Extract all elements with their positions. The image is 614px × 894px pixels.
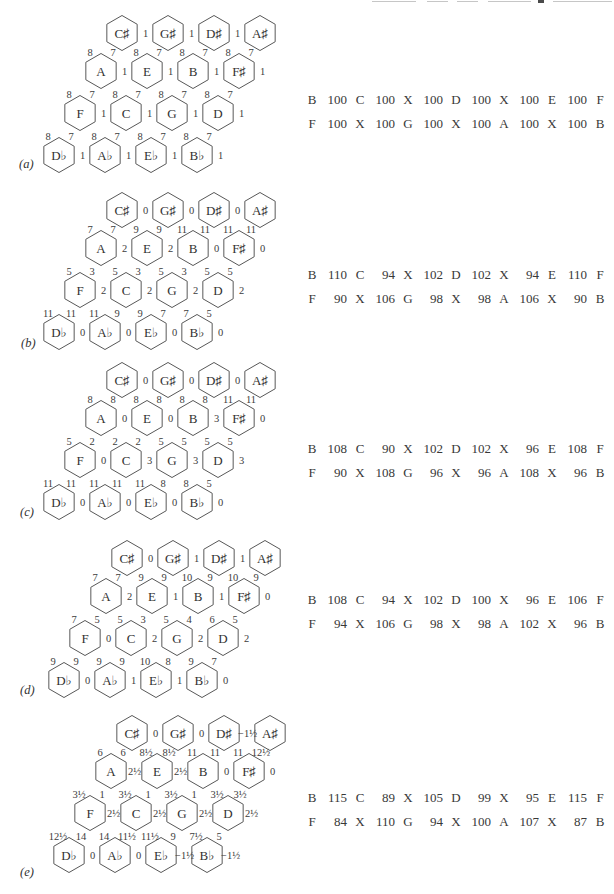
table-note-cell: X xyxy=(398,263,418,287)
edge-weight-horizontal: 1 xyxy=(219,591,224,602)
table-row: F94X106G98X98A102X96B xyxy=(302,612,610,636)
note-label: E♭ xyxy=(154,848,168,863)
edge-weight-diagonal-right: 11 xyxy=(112,478,122,489)
table-note-cell: X xyxy=(350,612,370,636)
table-value-cell: 110 xyxy=(370,810,398,834)
edge-weight-diagonal-left: 3½ xyxy=(118,789,131,800)
table-value-cell: 99 xyxy=(466,786,494,810)
table-note-cell: B xyxy=(590,461,610,485)
edge-weight-diagonal-right: 5 xyxy=(206,478,211,489)
edge-weight-horizontal: 2½ xyxy=(174,766,187,777)
table-note-cell: X xyxy=(398,588,418,612)
edge-weight-diagonal-right: 9 xyxy=(73,656,78,667)
table-note-cell: X xyxy=(494,88,514,112)
edge-weight-diagonal-right: 5 xyxy=(227,266,232,277)
edge-weight-horizontal: 0 xyxy=(189,205,194,216)
edge-weight-diagonal-right: 11 xyxy=(66,478,76,489)
note-label: B♭ xyxy=(195,673,210,688)
edge-weight-diagonal-left: 11 xyxy=(135,478,145,489)
table-note-cell: F xyxy=(302,810,322,834)
edge-weight-diagonal-left: 7 xyxy=(87,224,92,235)
edge-weight-diagonal-right: 7 xyxy=(202,47,207,58)
edge-weight-horizontal: 1 xyxy=(260,66,265,77)
edge-weight-horizontal: 2½ xyxy=(107,808,120,819)
edge-weight-horizontal: 1 xyxy=(80,150,85,161)
edge-weight-diagonal-right: 1 xyxy=(145,789,150,800)
note-label: D♭ xyxy=(56,673,72,688)
panel-e: C♯0G♯0D♯−1½A♯A2½66E2½8½8½B01111F♯01112½F… xyxy=(20,716,285,880)
edge-weight-horizontal: 2 xyxy=(122,243,127,254)
edge-weight-diagonal-left: 8 xyxy=(183,131,188,142)
table-note-cell: X xyxy=(398,786,418,810)
note-label: F♯ xyxy=(237,589,251,604)
note-label: F♯ xyxy=(242,764,256,779)
table-note-cell: X xyxy=(542,287,562,311)
edge-weight-diagonal-left: 5 xyxy=(163,614,168,625)
table-note-cell: B xyxy=(302,588,322,612)
tuning-table-a: B100C100X100D100X100E100FF100X100G100X10… xyxy=(302,88,610,136)
note-label: D♯ xyxy=(211,551,227,566)
table-value-cell: 100 xyxy=(322,112,350,136)
table-value-cell: 110 xyxy=(562,263,590,287)
edge-weight-horizontal: 1 xyxy=(177,675,182,686)
edge-weight-diagonal-right: 7 xyxy=(156,47,161,58)
edge-weight-horizontal: 0 xyxy=(260,413,265,424)
edge-weight-diagonal-left: 5 xyxy=(204,436,209,447)
note-label: F xyxy=(76,283,83,298)
note-label: E xyxy=(153,764,161,779)
edge-weight-diagonal-right: 7 xyxy=(115,572,120,583)
note-label: A♭ xyxy=(97,148,113,163)
edge-weight-horizontal: 0 xyxy=(106,633,111,644)
edge-weight-horizontal: 0 xyxy=(168,413,173,424)
table-note-cell: X xyxy=(494,786,514,810)
edge-weight-diagonal-right: 5 xyxy=(206,308,211,319)
edge-weight-horizontal: 1 xyxy=(131,675,136,686)
edge-weight-diagonal-left: 11 xyxy=(187,747,197,758)
table-note-cell: F xyxy=(590,588,610,612)
edge-weight-diagonal-left: 8 xyxy=(204,89,209,100)
note-label: G xyxy=(167,106,176,121)
note-label: C♯ xyxy=(124,726,139,741)
note-label: A xyxy=(96,64,106,79)
note-label: F♯ xyxy=(232,411,246,426)
table-note-cell: X xyxy=(542,112,562,136)
table-value-cell: 94 xyxy=(322,612,350,636)
edge-weight-diagonal-left: 9 xyxy=(137,308,142,319)
edge-weight-diagonal-right: 9 xyxy=(156,224,161,235)
edge-weight-diagonal-left: 8 xyxy=(112,89,117,100)
edge-weight-diagonal-right: 8½ xyxy=(162,747,175,758)
edge-weight-horizontal: 1 xyxy=(194,553,199,564)
note-label: B♭ xyxy=(200,848,215,863)
table-value-cell: 100 xyxy=(322,88,350,112)
edge-weight-diagonal-right: 5 xyxy=(181,436,186,447)
edge-weight-diagonal-right: 6 xyxy=(120,747,125,758)
edge-weight-diagonal-left: 5 xyxy=(66,266,71,277)
edge-weight-diagonal-right: 7 xyxy=(211,656,216,667)
edge-weight-horizontal: 0 xyxy=(122,413,127,424)
edge-weight-horizontal: −1½ xyxy=(175,850,194,861)
edge-weight-horizontal: 3 xyxy=(214,413,219,424)
table-value-cell: 105 xyxy=(418,786,446,810)
edge-weight-diagonal-right: 3 xyxy=(140,614,145,625)
table-value-cell: 108 xyxy=(322,437,350,461)
edge-weight-diagonal-right: 11½ xyxy=(118,831,136,842)
edge-weight-diagonal-right: 7 xyxy=(89,89,94,100)
note-label: G♯ xyxy=(170,726,186,741)
note-label: C xyxy=(132,806,141,821)
table-note-cell: B xyxy=(590,810,610,834)
edge-weight-horizontal: 1 xyxy=(214,66,219,77)
table-value-cell: 106 xyxy=(370,612,398,636)
edge-weight-diagonal-right: 8 xyxy=(160,478,165,489)
table-value-cell: 108 xyxy=(322,588,350,612)
edge-weight-horizontal: 0 xyxy=(189,375,194,386)
edge-weight-horizontal: 1 xyxy=(173,591,178,602)
edge-weight-diagonal-right: 11 xyxy=(246,224,256,235)
table-value-cell: 100 xyxy=(514,88,542,112)
table-note-cell: B xyxy=(302,263,322,287)
edge-weight-diagonal-left: 10 xyxy=(228,572,239,583)
edge-weight-diagonal-left: 3½ xyxy=(72,789,85,800)
table-note-cell: G xyxy=(398,287,418,311)
note-label: D xyxy=(223,806,232,821)
table-value-cell: 102 xyxy=(466,437,494,461)
edge-weight-diagonal-left: 8 xyxy=(179,47,184,58)
